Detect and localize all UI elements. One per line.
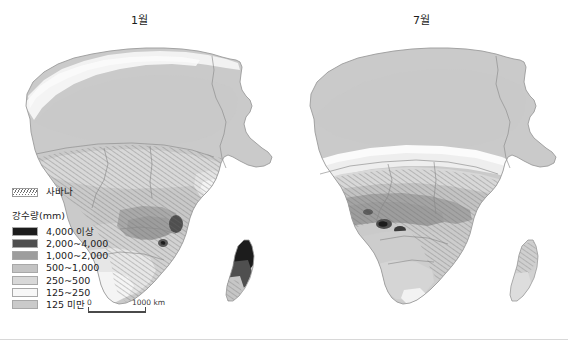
- legend-savanna-row: 사바나: [12, 186, 162, 198]
- scale-bar-start-label: 0: [87, 299, 92, 307]
- map-july: [284, 24, 568, 330]
- savanna-hatch-swatch: [12, 188, 38, 197]
- scale-bar-line: [88, 311, 146, 313]
- legend-swatch: [12, 300, 38, 309]
- legend-item-label: 1,000~2,000: [46, 251, 108, 261]
- legend-item-label: 250~500: [46, 276, 90, 286]
- legend-item: 1,000~2,000: [12, 250, 162, 262]
- legend-item-label: 4,000 이상: [46, 227, 94, 237]
- legend-swatch: [12, 288, 38, 297]
- scale-bar-tick-end: [145, 307, 146, 313]
- legend-savanna-label: 사바나: [46, 187, 73, 197]
- legend-item-label: 125 미만: [46, 300, 85, 310]
- legend-item: 500~1,000: [12, 262, 162, 274]
- legend: 사바나 강수량(mm) 4,000 이상 2,000~4,000 1,000~2…: [12, 186, 162, 311]
- january-madagascar: [219, 234, 264, 308]
- legend-item-label: 500~1,000: [46, 263, 99, 273]
- legend-item: 125~250: [12, 286, 162, 298]
- scale-bar-tick-start: [88, 307, 89, 313]
- precipitation-map-figure: 1월 7월: [0, 0, 568, 340]
- scale-bar-end-label: 1000 km: [132, 299, 165, 307]
- legend-item: 2,000~4,000: [12, 238, 162, 250]
- legend-swatch: [12, 239, 38, 248]
- scale-bar: 0 1000 km: [88, 299, 160, 321]
- legend-item-label: 2,000~4,000: [46, 239, 108, 249]
- map-july-svg: [284, 24, 568, 330]
- legend-item-label: 125~250: [46, 288, 90, 298]
- legend-heading: 강수량(mm): [12, 211, 162, 221]
- legend-swatch: [12, 276, 38, 285]
- legend-item: 250~500: [12, 274, 162, 286]
- legend-swatch: [12, 227, 38, 236]
- july-madagascar: [504, 234, 548, 308]
- legend-swatch: [12, 264, 38, 273]
- legend-item: 4,000 이상: [12, 226, 162, 238]
- legend-swatch: [12, 251, 38, 260]
